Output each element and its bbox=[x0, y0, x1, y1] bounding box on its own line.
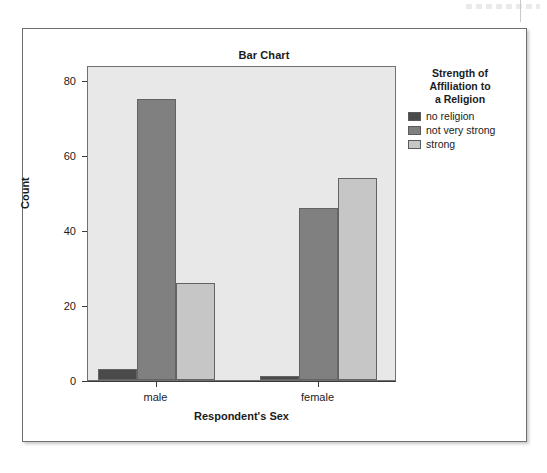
legend-title-line: Affiliation to bbox=[408, 80, 512, 93]
x-tick-label-female: female bbox=[278, 391, 358, 403]
legend-label: not very strong bbox=[426, 124, 495, 136]
y-tick-label: 20 bbox=[42, 301, 76, 312]
legend-title-line: Strength of bbox=[408, 67, 512, 80]
y-tick-label: 40 bbox=[42, 226, 76, 237]
legend-swatch-icon bbox=[408, 140, 421, 149]
legend-swatch-icon bbox=[408, 126, 421, 135]
bar-male-no-religion bbox=[98, 369, 137, 380]
legend-item-no-religion: no religion bbox=[408, 110, 526, 122]
legend-item-strong: strong bbox=[408, 138, 526, 150]
bar-male-not-very-strong bbox=[137, 99, 176, 380]
y-tick-mark bbox=[82, 306, 87, 307]
y-tick-mark bbox=[82, 156, 87, 157]
legend-title: Strength ofAffiliation toa Religion bbox=[408, 67, 512, 106]
bar-female-no-religion bbox=[260, 376, 299, 380]
legend-label: no religion bbox=[426, 110, 474, 122]
scan-artifact-page-rule bbox=[520, 0, 521, 22]
legend-item-not-very-strong: not very strong bbox=[408, 124, 526, 136]
y-tick-mark bbox=[82, 231, 87, 232]
bar-female-strong bbox=[338, 178, 377, 381]
x-tick-mark bbox=[156, 381, 157, 387]
x-axis-line bbox=[87, 381, 396, 382]
legend-label: strong bbox=[426, 138, 455, 150]
legend-items: no religionnot very strongstrong bbox=[408, 110, 526, 150]
bar-male-strong bbox=[176, 283, 215, 381]
x-tick-label-male: male bbox=[116, 391, 196, 403]
y-tick-mark bbox=[82, 81, 87, 82]
plot-area bbox=[87, 66, 396, 381]
y-tick-label: 60 bbox=[42, 151, 76, 162]
y-tick-label: 0 bbox=[42, 376, 76, 387]
legend: Strength ofAffiliation toa Religion no r… bbox=[408, 67, 526, 152]
scan-artifact-header bbox=[466, 4, 540, 9]
x-tick-mark bbox=[318, 381, 319, 387]
bar-female-not-very-strong bbox=[299, 208, 338, 381]
y-tick-label: 80 bbox=[42, 76, 76, 87]
chart-title: Bar Chart bbox=[109, 49, 419, 61]
x-axis-title: Respondent's Sex bbox=[87, 410, 396, 422]
y-axis-title: Count bbox=[19, 177, 31, 209]
bars-layer bbox=[88, 67, 395, 380]
legend-title-line: a Religion bbox=[408, 93, 512, 106]
figure-frame: Bar Chart 020406080 Count malefemale Res… bbox=[22, 28, 527, 442]
legend-swatch-icon bbox=[408, 112, 421, 121]
